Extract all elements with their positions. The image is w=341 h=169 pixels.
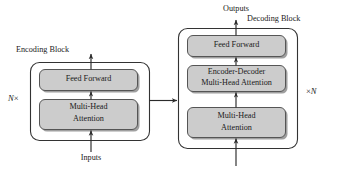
decoder-encoder-decoder-attention-label-line1: Encoder-Decoder	[188, 68, 286, 77]
inputs-label: Inputs	[61, 154, 121, 163]
diagram-canvas: Encoding Block N× Feed Forward Multi-Hea…	[0, 0, 341, 169]
encoder-multi-head-attention-label-line2: Attention	[40, 115, 138, 124]
encoder-repeat-symbol: ×	[14, 93, 19, 103]
diagram-vector-layer	[0, 0, 341, 169]
outputs-label: Outputs	[206, 5, 266, 14]
decoder-encoder-decoder-attention-label-line2: Multi-Head Attention	[186, 79, 288, 88]
decoder-repeat-label: ×N	[306, 87, 317, 96]
decoder-multi-head-attention-label-line1: Multi-Head	[188, 112, 286, 121]
decoder-repeat-count: N	[311, 86, 317, 96]
encoding-block-label: Encoding Block	[16, 46, 69, 55]
encoder-repeat-label: N×	[8, 94, 19, 103]
decoding-block-label: Decoding Block	[247, 15, 300, 24]
encoder-feed-forward-label: Feed Forward	[40, 75, 138, 84]
encoder-multi-head-attention-label-line1: Multi-Head	[40, 103, 138, 112]
decoder-feed-forward-label: Feed Forward	[188, 41, 286, 50]
decoder-multi-head-attention-label-line2: Attention	[188, 124, 286, 133]
